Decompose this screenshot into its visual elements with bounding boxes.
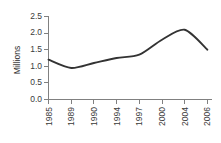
y-tick-group: 0.0 0.5 1.0 1.5 2.0 2.5 — [30, 11, 48, 104]
x-tick-label: 1997 — [134, 107, 144, 126]
line-chart: Millions 0.0 0.5 1.0 1.5 2.0 2.5 1985 — [0, 0, 221, 143]
chart-canvas: Millions 0.0 0.5 1.0 1.5 2.0 2.5 1985 — [0, 0, 221, 143]
x-tick-label: 2004 — [180, 107, 190, 126]
y-tick-label: 0.0 — [30, 94, 42, 104]
x-tick-group: 1985 1989 1990 1994 1997 2000 2004 2006 — [44, 100, 213, 126]
x-tick-label: 1985 — [44, 107, 54, 126]
y-axis-title: Millions — [12, 46, 22, 74]
x-tick-label: 1989 — [66, 107, 76, 126]
x-tick-label: 1990 — [89, 107, 99, 126]
data-series-line — [49, 30, 208, 68]
y-tick-label: 2.5 — [30, 11, 42, 21]
y-tick-label: 2.0 — [30, 27, 42, 37]
x-tick-label: 2006 — [202, 107, 212, 126]
y-tick-label: 0.5 — [30, 77, 42, 87]
x-tick-label: 2000 — [157, 107, 167, 126]
x-tick-label: 1994 — [112, 107, 122, 126]
y-tick-label: 1.0 — [30, 61, 42, 71]
y-axis-title-group: Millions — [12, 46, 22, 74]
y-tick-label: 1.5 — [30, 44, 42, 54]
